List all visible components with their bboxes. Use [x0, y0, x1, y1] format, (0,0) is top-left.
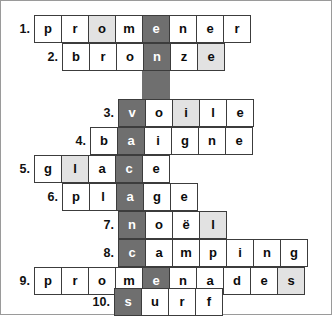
- crossword-cell[interactable]: g: [280, 239, 308, 267]
- crossword-key-cell[interactable]: s: [114, 288, 142, 316]
- clue-number: 8.: [88, 239, 118, 267]
- crossword-highlight-cell[interactable]: i: [172, 99, 200, 127]
- crossword-highlight-cell[interactable]: o: [88, 15, 116, 43]
- crossword-row: 3.voile: [88, 99, 254, 127]
- crossword-key-cell[interactable]: e: [142, 15, 170, 43]
- crossword-key-cell[interactable]: a: [116, 183, 144, 211]
- crossword-cell[interactable]: l: [89, 183, 117, 211]
- clue-number: 4.: [60, 127, 90, 155]
- crossword-cell[interactable]: o: [145, 99, 173, 127]
- clue-number: 5.: [4, 155, 34, 183]
- clue-number: 10.: [84, 288, 114, 316]
- clue-number: 9.: [4, 267, 34, 295]
- crossword-cell[interactable]: p: [62, 183, 90, 211]
- crossword-cell[interactable]: m: [115, 15, 143, 43]
- crossword-cell[interactable]: e: [196, 15, 224, 43]
- crossword-key-cell[interactable]: c: [115, 155, 143, 183]
- crossword-key-cell[interactable]: c: [118, 239, 146, 267]
- crossword-cell[interactable]: f: [195, 288, 223, 316]
- crossword-cell[interactable]: b: [62, 43, 90, 71]
- crossword-cell[interactable]: l: [199, 99, 227, 127]
- crossword-cell[interactable]: o: [145, 211, 173, 239]
- crossword-cell[interactable]: p: [34, 15, 62, 43]
- crossword-row: 5.glace: [4, 155, 170, 183]
- crossword-cell[interactable]: m: [172, 239, 200, 267]
- crossword-row: 7.noël: [88, 211, 227, 239]
- crossword-row: 6.plage: [32, 183, 198, 211]
- crossword-cell[interactable]: a: [145, 239, 173, 267]
- crossword-cell[interactable]: b: [90, 127, 118, 155]
- crossword-cell[interactable]: p: [199, 239, 227, 267]
- crossword-row: 8.camping: [88, 239, 308, 267]
- crossword-cell[interactable]: p: [34, 267, 62, 295]
- crossword-cell[interactable]: g: [143, 183, 171, 211]
- crossword-cell[interactable]: z: [170, 43, 198, 71]
- crossword-cell[interactable]: g: [171, 127, 199, 155]
- crossword-cell[interactable]: u: [141, 288, 169, 316]
- crossword-cell[interactable]: d: [223, 267, 251, 295]
- clue-number: 1.: [4, 15, 34, 43]
- clue-number: 6.: [32, 183, 62, 211]
- crossword-cell[interactable]: n: [253, 239, 281, 267]
- crossword-cell[interactable]: e: [142, 155, 170, 183]
- crossword-key-cell[interactable]: a: [117, 127, 145, 155]
- clue-number: 3.: [88, 99, 118, 127]
- crossword-cell[interactable]: n: [198, 127, 226, 155]
- crossword-cell[interactable]: n: [169, 15, 197, 43]
- crossword-cell[interactable]: r: [168, 288, 196, 316]
- clue-number: 7.: [88, 211, 118, 239]
- crossword-cell[interactable]: r: [61, 15, 89, 43]
- crossword-spacer-row: [142, 71, 170, 99]
- crossword-cell[interactable]: i: [144, 127, 172, 155]
- crossword-cell[interactable]: e: [225, 127, 253, 155]
- crossword-key-cell[interactable]: v: [118, 99, 146, 127]
- crossword-cell[interactable]: a: [88, 155, 116, 183]
- crossword-cell[interactable]: g: [34, 155, 62, 183]
- clue-number: 2.: [32, 43, 62, 71]
- crossword-cell[interactable]: o: [116, 43, 144, 71]
- crossword-key-cell[interactable]: n: [118, 211, 146, 239]
- crossword-cell[interactable]: e: [226, 99, 254, 127]
- crossword-blank-cell[interactable]: [142, 71, 170, 99]
- crossword-grid: 1.promener2.bronze3.voile4.baigne5.glace…: [1, 1, 332, 316]
- crossword-row: 2.bronze: [32, 43, 225, 71]
- crossword-row: 1.promener: [4, 15, 251, 43]
- crossword-highlight-cell[interactable]: l: [61, 155, 89, 183]
- crossword-key-cell[interactable]: n: [143, 43, 171, 71]
- crossword-row: 10.surf: [84, 288, 223, 316]
- crossword-cell[interactable]: r: [89, 43, 117, 71]
- crossword-cell[interactable]: i: [226, 239, 254, 267]
- crossword-highlight-cell[interactable]: e: [197, 43, 225, 71]
- crossword-cell[interactable]: r: [223, 15, 251, 43]
- crossword-cell[interactable]: ë: [172, 211, 200, 239]
- crossword-highlight-cell[interactable]: l: [199, 211, 227, 239]
- crossword-cell[interactable]: e: [250, 267, 278, 295]
- crossword-row: 4.baigne: [60, 127, 253, 155]
- crossword-highlight-cell[interactable]: s: [277, 267, 305, 295]
- crossword-cell[interactable]: e: [170, 183, 198, 211]
